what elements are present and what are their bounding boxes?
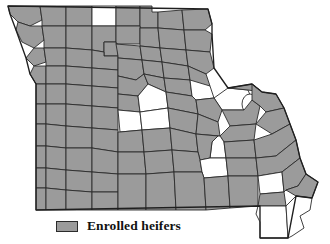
county-region[interactable]	[66, 6, 92, 26]
county-region[interactable]	[36, 168, 46, 188]
county-region[interactable]	[36, 188, 46, 210]
county-region[interactable]	[118, 174, 146, 210]
county-region[interactable]	[142, 128, 172, 152]
county-region[interactable]	[92, 86, 118, 108]
county-region[interactable]	[46, 168, 66, 190]
county-region[interactable]	[92, 106, 118, 130]
county-region[interactable]	[118, 130, 144, 152]
county-region[interactable]	[46, 146, 66, 170]
county-region[interactable]	[286, 196, 312, 238]
county-region[interactable]	[66, 190, 92, 210]
county-region[interactable]	[66, 66, 92, 86]
county-region[interactable]	[46, 66, 66, 84]
county-region[interactable]	[66, 84, 92, 106]
county-region[interactable]	[258, 172, 284, 194]
county-region[interactable]	[92, 172, 118, 192]
county-region[interactable]	[46, 104, 66, 126]
county-region[interactable]	[220, 124, 256, 142]
legend-label: Enrolled heifers	[87, 218, 181, 234]
county-region[interactable]	[116, 44, 142, 60]
county-region[interactable]	[46, 124, 66, 148]
county-region[interactable]	[66, 148, 92, 172]
county-region[interactable]	[116, 26, 140, 44]
county-region[interactable]	[36, 146, 46, 168]
county-region[interactable]	[258, 192, 286, 206]
county-region[interactable]	[200, 158, 228, 178]
county-region[interactable]	[158, 28, 186, 50]
county-region[interactable]	[144, 150, 174, 174]
legend-swatch-icon	[56, 221, 78, 232]
county-region[interactable]	[118, 152, 146, 174]
legend: Enrolled heifers	[56, 218, 181, 234]
county-region[interactable]	[224, 140, 256, 158]
county-region[interactable]	[36, 124, 46, 146]
county-region[interactable]	[66, 170, 92, 192]
county-region[interactable]	[140, 46, 162, 62]
county-region[interactable]	[256, 206, 288, 238]
county-region[interactable]	[16, 22, 44, 48]
county-region[interactable]	[204, 176, 230, 210]
county-region[interactable]	[118, 94, 140, 112]
county-region[interactable]	[226, 158, 258, 176]
county-region[interactable]	[66, 104, 92, 128]
missouri-county-map	[0, 0, 330, 244]
county-region[interactable]	[118, 110, 142, 132]
county-region[interactable]	[26, 48, 46, 66]
county-region[interactable]	[30, 66, 46, 84]
map-page: Enrolled heifers	[0, 0, 330, 244]
county-region[interactable]	[182, 9, 212, 30]
county-region[interactable]	[92, 192, 118, 210]
county-region[interactable]	[116, 6, 140, 26]
county-region[interactable]	[140, 108, 170, 130]
county-region[interactable]	[36, 84, 46, 104]
county-region[interactable]	[92, 6, 116, 26]
county-region[interactable]	[146, 172, 176, 210]
county-region[interactable]	[66, 26, 92, 50]
county-region[interactable]	[92, 148, 118, 174]
county-region[interactable]	[40, 6, 66, 26]
county-region[interactable]	[46, 84, 66, 104]
county-region[interactable]	[184, 30, 212, 52]
county-region[interactable]	[36, 104, 46, 124]
county-region[interactable]	[140, 28, 160, 48]
county-region[interactable]	[92, 68, 118, 88]
county-region[interactable]	[46, 188, 66, 210]
map-svg	[0, 0, 330, 244]
county-region[interactable]	[228, 176, 258, 208]
county-region[interactable]	[174, 172, 206, 210]
county-region[interactable]	[66, 126, 92, 148]
county-region[interactable]	[42, 26, 66, 48]
county-region[interactable]	[158, 10, 184, 30]
county-region[interactable]	[172, 150, 202, 172]
county-region[interactable]	[66, 48, 92, 68]
county-region[interactable]	[140, 6, 158, 28]
county-region[interactable]	[44, 48, 66, 66]
